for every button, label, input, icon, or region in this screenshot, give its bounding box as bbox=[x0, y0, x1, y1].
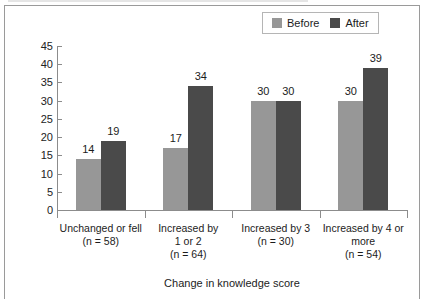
bar-before-1[interactable] bbox=[163, 148, 188, 210]
category-tick-4 bbox=[407, 211, 408, 218]
bar-after-1[interactable] bbox=[188, 86, 213, 210]
legend-item-after[interactable]: After bbox=[330, 18, 368, 29]
bar-value-after-3: 39 bbox=[357, 53, 394, 64]
category-label-3-line-2: (n = 54) bbox=[314, 248, 414, 261]
y-tick-label-45: 45 bbox=[29, 41, 53, 52]
category-label-1-line-0: Increased by bbox=[139, 222, 239, 235]
legend-label-before: Before bbox=[287, 18, 319, 29]
chart-legend: Before After bbox=[262, 12, 379, 34]
bar-value-before-1: 17 bbox=[157, 133, 194, 144]
category-label-2-line-1: (n = 30) bbox=[226, 235, 326, 248]
bar-value-before-3: 30 bbox=[332, 86, 369, 97]
caption-remnant-line bbox=[8, 0, 308, 2]
legend-swatch-before bbox=[272, 18, 282, 28]
y-tick-label-30: 30 bbox=[29, 96, 53, 107]
category-label-0-line-1: (n = 58) bbox=[51, 235, 151, 248]
bar-value-after-1: 34 bbox=[182, 71, 219, 82]
bar-before-2[interactable] bbox=[251, 101, 276, 210]
y-tick-label-25: 25 bbox=[29, 114, 53, 125]
category-label-1: Increased by1 or 2(n = 64) bbox=[139, 222, 239, 261]
category-label-3-line-1: more bbox=[314, 235, 414, 248]
category-label-2: Increased by 3(n = 30) bbox=[226, 222, 326, 248]
category-tick-0 bbox=[57, 211, 58, 218]
category-label-1-line-1: 1 or 2 bbox=[139, 235, 239, 248]
y-tick-label-35: 35 bbox=[29, 77, 53, 88]
bar-value-before-0: 14 bbox=[70, 144, 107, 155]
bar-value-after-0: 19 bbox=[95, 126, 132, 137]
y-tick-label-10: 10 bbox=[29, 169, 53, 180]
legend-label-after: After bbox=[345, 18, 368, 29]
category-label-3: Increased by 4 ormore(n = 54) bbox=[314, 222, 414, 261]
y-tick-label-40: 40 bbox=[29, 59, 53, 70]
y-tick-label-0: 0 bbox=[29, 205, 53, 216]
category-label-1-line-2: (n = 64) bbox=[139, 248, 239, 261]
chart-figure: Before After 051015202530354045 14173030… bbox=[0, 0, 423, 299]
x-axis-title: Change in knowledge score bbox=[57, 277, 407, 289]
legend-item-before[interactable]: Before bbox=[272, 18, 319, 29]
legend-swatch-after bbox=[330, 18, 340, 28]
y-tick-label-20: 20 bbox=[29, 132, 53, 143]
bar-value-after-2: 30 bbox=[270, 86, 307, 97]
y-tick-label-15: 15 bbox=[29, 150, 53, 161]
bar-before-0[interactable] bbox=[76, 159, 101, 210]
bar-after-2[interactable] bbox=[276, 101, 301, 210]
y-tick-label-5: 5 bbox=[29, 187, 53, 198]
category-tick-2 bbox=[232, 211, 233, 218]
category-tick-3 bbox=[320, 211, 321, 218]
category-label-0: Unchanged or fell(n = 58) bbox=[51, 222, 151, 248]
category-label-2-line-0: Increased by 3 bbox=[226, 222, 326, 235]
bar-before-3[interactable] bbox=[338, 101, 363, 210]
category-label-0-line-0: Unchanged or fell bbox=[51, 222, 151, 235]
category-label-3-line-0: Increased by 4 or bbox=[314, 222, 414, 235]
category-tick-1 bbox=[145, 211, 146, 218]
